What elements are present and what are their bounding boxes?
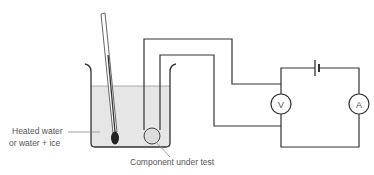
thermometer-bulb (111, 132, 119, 145)
wire-inner (160, 55, 281, 130)
ammeter: A (349, 94, 369, 114)
ammeter-label: A (356, 100, 362, 110)
water-label-line2: or water + ice (9, 138, 60, 149)
component-under-test (144, 128, 160, 144)
circuit-top-left (281, 68, 315, 94)
battery-cell (315, 60, 319, 76)
component-label: Component under test (130, 157, 214, 168)
voltmeter: V (271, 94, 291, 114)
voltmeter-label: V (278, 100, 284, 110)
circuit-bottom (281, 114, 359, 147)
diagram-canvas: V A Heated water or water + ice Componen… (0, 0, 374, 175)
water-label-line1: Heated water (12, 126, 63, 137)
circuit-top-right (319, 68, 359, 94)
